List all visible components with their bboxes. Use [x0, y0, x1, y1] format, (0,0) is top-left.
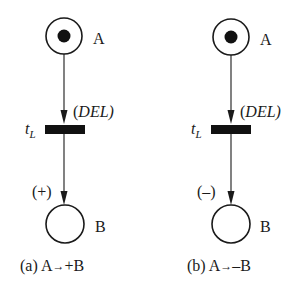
place-a-top — [213, 19, 249, 55]
place-label-a: A — [93, 30, 105, 47]
place-label-b: B — [95, 218, 106, 235]
place-b — [46, 205, 84, 243]
petri-net-diagram: A (DEL) tL (+) B (a) A→+B A (DEL) tL (–) — [0, 0, 306, 292]
arrowhead-icon — [228, 110, 235, 124]
place-label-a: A — [260, 31, 272, 48]
arrowhead-icon — [228, 191, 235, 205]
transition-bar — [45, 125, 85, 134]
caption-a: (a) A→+B — [20, 257, 84, 275]
arc-label-del: (DEL) — [240, 103, 281, 121]
place-a-top — [46, 18, 82, 54]
token-dot — [225, 31, 238, 44]
transition-bar — [211, 125, 251, 134]
token-dot — [58, 30, 71, 43]
caption-b: (b) A→–B — [187, 257, 251, 275]
arc-label-sign: (+) — [32, 183, 52, 201]
arc-label-del: (DEL) — [73, 103, 114, 121]
arrowhead-icon — [61, 191, 68, 205]
transition-label: tL — [25, 120, 36, 140]
transition-label: tL — [191, 120, 202, 140]
place-b — [212, 205, 250, 243]
panel-a: A (DEL) tL (+) B (a) A→+B — [20, 18, 114, 275]
place-label-b: B — [260, 218, 271, 235]
arrowhead-icon — [61, 110, 68, 124]
panel-b: A (DEL) tL (–) B (b) A→–B — [187, 19, 281, 275]
arc-label-sign: (–) — [197, 183, 216, 201]
